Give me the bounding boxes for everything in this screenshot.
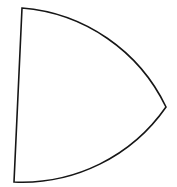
curved-triangle-figure	[0, 0, 177, 187]
figure-canvas	[0, 0, 177, 187]
curved-triangle-shape	[14, 8, 166, 182]
